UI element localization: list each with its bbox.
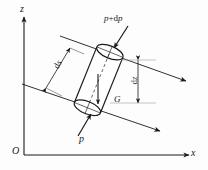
ds-dimension: [46, 48, 84, 96]
pressure-top-arrow: [114, 26, 128, 48]
pressure-top-label: p+dp: [104, 14, 123, 23]
diagram-svg: [0, 0, 208, 170]
weight-label: G: [114, 95, 121, 104]
pressure-top-var: p: [118, 13, 123, 23]
dz-delta: d: [129, 80, 139, 85]
origin-label: O: [12, 146, 19, 156]
z-axis-label: z: [20, 4, 24, 14]
figure-canvas: z x O p+dp p G ds dz: [0, 0, 208, 170]
dz-var: z: [129, 76, 139, 80]
fluid-element-cylinder: [72, 41, 125, 119]
ds-ext-upper: [70, 48, 84, 54]
pressure-bottom-label: p: [79, 134, 84, 144]
x-axis-label: x: [191, 148, 195, 158]
dz-dimension-label: dz: [130, 76, 139, 84]
